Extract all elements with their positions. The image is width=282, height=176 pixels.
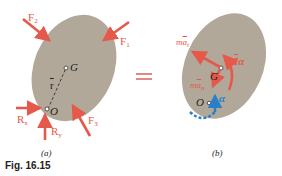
label-ry: Ry — [51, 126, 62, 139]
label-rx: Rx — [17, 114, 28, 127]
label-g-a: G — [70, 62, 78, 73]
label-o-a: O — [50, 106, 58, 117]
label-f1: F1 — [120, 36, 130, 49]
panel-a-label: (a) — [41, 149, 52, 158]
panel-b-label: (b) — [212, 149, 223, 158]
point-g-a — [64, 66, 68, 70]
label-ma-n: man — [190, 81, 205, 92]
label-f3: F3 — [88, 115, 98, 128]
figure-caption: Fig. 16.15 — [5, 160, 51, 171]
label-ma-t: mat — [176, 38, 189, 49]
figure-16-15: F2 F1 F3 Rx Ry G O r (a) mat man Iα G O … — [0, 0, 282, 176]
point-o-b — [207, 101, 211, 105]
label-alpha: α — [219, 93, 225, 104]
point-o-a — [45, 107, 49, 111]
label-o-b: O — [196, 97, 204, 108]
rigid-body-b — [166, 0, 282, 132]
label-r: r — [50, 80, 54, 91]
label-i-alpha: Iα — [234, 56, 244, 67]
equals-sign — [136, 74, 152, 79]
label-f2: F2 — [28, 12, 38, 25]
label-g-b: G — [210, 71, 218, 82]
